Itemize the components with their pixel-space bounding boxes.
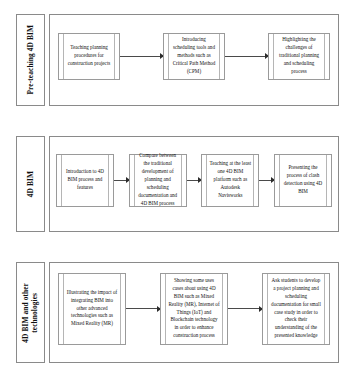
process-box[interactable]: Compare between the traditional developm… [129, 154, 187, 207]
flow-arrow-icon [259, 180, 274, 181]
process-box-label: Presenting the process of clash detectio… [282, 164, 324, 196]
diagram-band-4d-bim-other-technologies: 4D BIM and other technologies Illustrati… [0, 262, 347, 363]
process-box[interactable]: Ask students to develop a project planni… [262, 273, 330, 345]
process-box-label: Illustrating the impact of integrating B… [66, 289, 118, 328]
process-box-label: Ask students to develop a project planni… [270, 277, 322, 340]
process-box-label: Introduction to 4D BIM process and featu… [64, 168, 106, 192]
process-box[interactable]: Teaching planning procedures for constru… [58, 33, 120, 80]
diagram-band-4d-bim: 4D BIM Introduction to 4D BIM process an… [0, 136, 347, 232]
process-box[interactable]: Teaching at the least one 4D BIM platfor… [201, 154, 259, 207]
process-box[interactable]: Highlighting the challenges of tradition… [268, 33, 330, 80]
process-box-label: Teaching at the least one 4D BIM platfor… [209, 160, 251, 199]
flow-arrow-icon [126, 308, 160, 309]
process-box-label: Introducing scheduling tools and methods… [171, 36, 217, 75]
flow-frame-4d-bim: Introduction to 4D BIM process and featu… [49, 136, 339, 232]
stage-label-text: 4D BIM and other technologies [21, 283, 40, 343]
process-box[interactable]: Introduction to 4D BIM process and featu… [56, 154, 114, 207]
process-box[interactable]: Illustrating the impact of integrating B… [58, 273, 126, 345]
process-box[interactable]: Introducing scheduling tools and methods… [163, 33, 225, 80]
flow-frame-pre-teaching: Teaching planning procedures for constru… [49, 14, 339, 106]
stage-label-4d-bim-other-technologies: 4D BIM and other technologies [16, 262, 45, 363]
flow-frame-4d-bim-other-technologies: Illustrating the impact of integrating B… [49, 262, 339, 363]
flow-arrow-icon [120, 56, 163, 57]
process-box[interactable]: Showing some uses cases about using 4D B… [160, 273, 228, 345]
diagram-band-pre-teaching: Pre-teaching 4D BIM Teaching planning pr… [0, 14, 347, 106]
stage-label-4d-bim: 4D BIM [16, 136, 45, 232]
flow-arrow-icon [225, 56, 268, 57]
flow-arrow-icon [187, 180, 202, 181]
process-box[interactable]: Presenting the process of clash detectio… [274, 154, 332, 207]
stage-label-text: Pre-teaching 4D BIM [26, 25, 35, 95]
process-box-label: Showing some uses cases about using 4D B… [168, 277, 220, 340]
process-box-label: Compare between the traditional developm… [137, 152, 179, 207]
stage-label-pre-teaching: Pre-teaching 4D BIM [16, 14, 45, 106]
flow-arrow-icon [114, 180, 129, 181]
flow-arrow-icon [228, 308, 262, 309]
process-box-label: Highlighting the challenges of tradition… [276, 36, 322, 75]
process-box-label: Teaching planning procedures for constru… [66, 44, 112, 68]
flowchart-diagram: Pre-teaching 4D BIM Teaching planning pr… [0, 0, 347, 373]
stage-label-text: 4D BIM [26, 171, 35, 197]
